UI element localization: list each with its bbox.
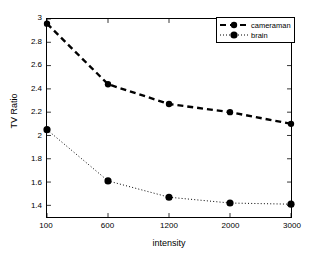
data-point-brain-1200 [165,194,172,201]
x-tick-label: 2000 [222,222,240,230]
x-tick-label: 1200 [160,222,178,230]
legend-label-brain: brain [249,31,268,40]
data-point-brain-600 [104,177,111,184]
data-point-brain-2000 [226,199,233,206]
y-tick-label: 2.8 [31,38,42,46]
y-tick-label: 2 [38,132,42,140]
x-tick-label: 600 [101,222,114,230]
y-axis-tick-labels: 1.41.61.822.22.42.62.83 [14,0,42,260]
x-axis-title: intensity [46,238,292,248]
series-brain [43,126,294,208]
plot-canvas [47,19,291,217]
chart-legend: cameraman brain [216,17,295,43]
legend-item-cameraman: cameraman [219,20,291,30]
y-tick-label: 1.6 [31,179,42,187]
x-tick-label: 100 [39,222,52,230]
y-tick-label: 2.2 [31,108,42,116]
legend-label-cameraman: cameraman [249,21,291,30]
y-tick-label: 3 [38,14,42,22]
y-tick-label: 2.4 [31,85,42,93]
data-point-cameraman-600 [105,81,111,87]
data-point-cameraman-1200 [166,101,172,107]
y-tick-label: 1.8 [31,155,42,163]
x-axis-tick-labels: 100600120020003000 [0,222,312,234]
data-point-cameraman-100 [44,20,50,26]
data-point-brain-100 [43,126,50,133]
data-point-cameraman-2000 [227,109,233,115]
data-point-brain-3000 [287,201,294,208]
legend-item-brain: brain [219,30,291,40]
chart-figure: TV Ratio 1.41.61.822.22.42.62.83 1006001… [0,0,312,260]
y-tick-label: 2.6 [31,61,42,69]
x-tick-label: 3000 [283,222,301,230]
legend-swatch-dashed-marker [219,20,249,30]
legend-swatch-dotted-marker [219,30,249,40]
plot-area [46,18,292,218]
y-tick-label: 1.4 [31,202,42,210]
data-point-cameraman-3000 [288,121,294,127]
